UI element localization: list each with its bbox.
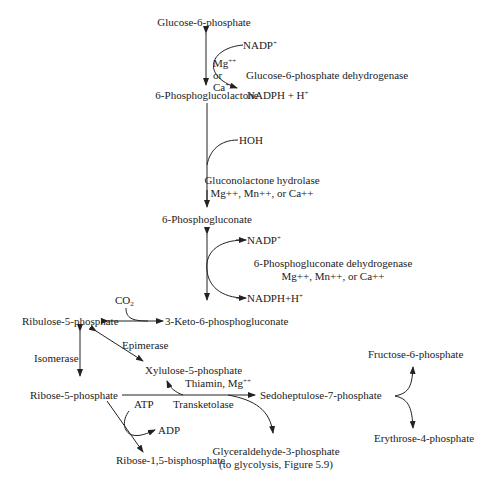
enzyme-isomerase: Isomerase [34, 352, 79, 365]
cofactor-nadph-1: NADPH + H+ [247, 89, 309, 102]
cofactor-co2: CO2 [115, 294, 134, 307]
metabolite-3-keto-6-phosphogluconate: 3-Keto-6-phosphogluconate [165, 315, 288, 328]
metabolite-6-phosphoglucolactone: 6-Phosphoglucolactone [155, 89, 258, 102]
metabolite-glucose-6-phosphate: Glucose-6-phosphate [157, 16, 250, 29]
metabolite-xylulose-5-phosphate: Xylulose-5-phosphate [145, 364, 242, 377]
cofactor-nadph-2: NADPH+H+ [247, 292, 303, 305]
pentose-phosphate-pathway-diagram: Glucose-6-phosphate 6-Phosphoglucolacton… [0, 0, 493, 491]
metabolite-6-phosphogluconate: 6-Phosphogluconate [162, 213, 252, 226]
metabolite-glyceraldehyde-3-phosphate: Glyceraldehyde-3-phosphate [212, 445, 339, 458]
cofactor-hoh: HOH [239, 134, 263, 147]
cofactor-ca: Ca++ [213, 81, 233, 94]
enzyme-6-phosphogluconate-dehydrogenase-ions: Mg++, Mn++, or Ca++ [282, 270, 385, 283]
metabolite-ribulose-5-phosphate: Ribulose-5-phosphate [22, 315, 119, 328]
metabolite-ribose-1-5-bisphosphate: Ribose-1,5-bisphosphate [116, 454, 225, 467]
enzyme-glucose-6-phosphate-dehydrogenase: Glucose-6-phosphate dehydrogenase [246, 69, 408, 82]
enzyme-6-phosphogluconate-dehydrogenase: 6-Phosphogluconate dehydrogenase [254, 257, 413, 270]
metabolite-fructose-6-phosphate: Fructose-6-phosphate [368, 348, 463, 361]
metabolite-erythrose-4-phosphate: Erythrose-4-phosphate [374, 432, 474, 445]
enzyme-transketolase: Transketolase [173, 398, 234, 411]
cofactor-nadp-1: NADP+ [243, 39, 277, 52]
cofactor-nadp-2: NADP+ [247, 234, 281, 247]
cofactor-adp: ADP [158, 424, 180, 437]
enzyme-gluconolactone-hydrolase: Gluconolactone hydrolase [204, 174, 319, 187]
metabolite-sedoheptulose-7-phosphate: Sedoheptulose-7-phosphate [260, 389, 382, 402]
cofactor-thiamin-mg: Thiamin, Mg++ [185, 377, 251, 390]
glycolysis-note: (to glycolysis, Figure 5.9) [219, 458, 333, 471]
enzyme-epimerase: Epimerase [122, 339, 168, 352]
metabolite-ribose-5-phosphate: Ribose-5-phosphate [30, 389, 118, 402]
cofactor-atp: ATP [134, 398, 154, 411]
enzyme-gluconolactone-hydrolase-ions: Mg++, Mn++, or Ca++ [211, 187, 314, 200]
